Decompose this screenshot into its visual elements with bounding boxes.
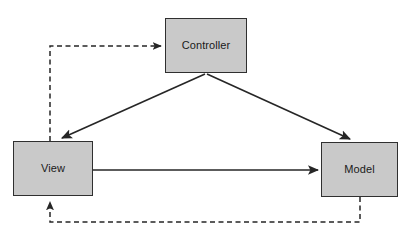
edge-controller-to-view	[62, 74, 205, 138]
edge-view-to-controller	[50, 46, 161, 141]
node-model[interactable]: Model	[321, 142, 398, 197]
node-controller[interactable]: Controller	[165, 18, 247, 73]
node-model-label: Model	[344, 164, 374, 175]
node-view[interactable]: View	[13, 141, 93, 196]
mvc-diagram-canvas: Controller View Model	[0, 0, 413, 233]
node-controller-label: Controller	[182, 40, 231, 51]
edge-controller-to-model	[207, 74, 350, 139]
edge-model-to-view	[50, 197, 360, 222]
node-view-label: View	[41, 163, 65, 174]
